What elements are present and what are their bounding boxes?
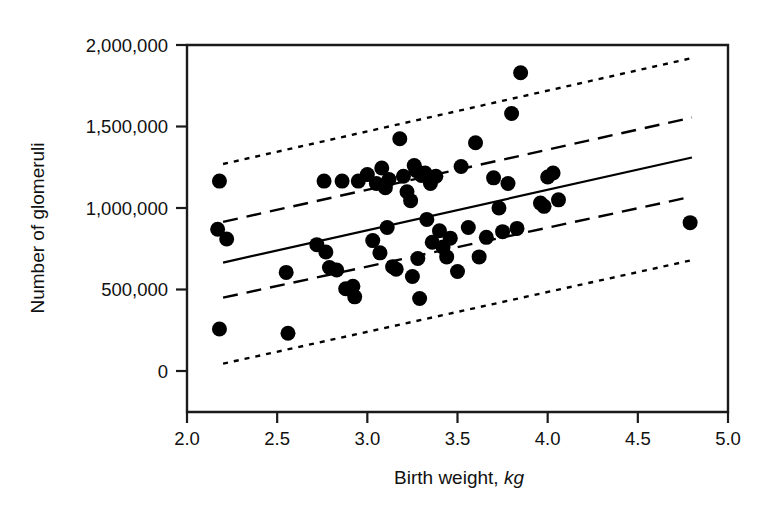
data-point <box>504 106 519 121</box>
x-tick-label-0: 2.0 <box>174 428 200 449</box>
data-point <box>419 212 434 227</box>
axes-frame <box>187 45 728 412</box>
fitted-regression-line <box>223 157 692 262</box>
data-point <box>212 321 227 336</box>
data-points-group <box>210 65 697 340</box>
data-point <box>491 201 506 216</box>
data-point <box>461 220 476 235</box>
data-point <box>280 326 295 341</box>
data-point <box>428 169 443 184</box>
x-tick-label-2: 3.0 <box>354 428 380 449</box>
x-tick-label-5: 4.5 <box>625 428 651 449</box>
x-axis-title-unit: kg <box>504 467 525 488</box>
x-tick-label-1: 2.5 <box>264 428 290 449</box>
data-point <box>335 174 350 189</box>
data-point <box>454 159 469 174</box>
scatter-plot-figure: 0500,0001,000,0001,500,0002,000,000 2.02… <box>0 0 771 509</box>
x-tick-label-3: 3.5 <box>445 428 471 449</box>
data-point <box>380 220 395 235</box>
data-point <box>403 193 418 208</box>
x-axis-title: Birth weight, kg <box>394 467 524 488</box>
data-point <box>443 231 458 246</box>
y-axis-title: Number of glomeruli <box>27 142 48 313</box>
x-axis-tick-labels: 2.02.53.03.54.04.55.0 <box>174 428 741 449</box>
x-tick-label-4: 4.0 <box>535 428 561 449</box>
y-tick-label-3: 1,500,000 <box>86 116 168 137</box>
y-tick-label-4: 2,000,000 <box>86 35 168 56</box>
data-point <box>486 170 501 185</box>
plot-frame-top-right <box>187 45 728 412</box>
y-tick-label-0: 0 <box>158 361 168 382</box>
y-tick-label-2: 1,000,000 <box>86 198 168 219</box>
data-point <box>683 215 698 230</box>
data-point <box>212 174 227 189</box>
y-axis-tick-labels: 0500,0001,000,0001,500,0002,000,000 <box>86 35 168 382</box>
data-point <box>546 165 561 180</box>
data-point <box>412 291 427 306</box>
prediction-interval-upper <box>223 58 692 164</box>
glomeruli-birthweight-scatter: 0500,0001,000,0001,500,0002,000,000 2.02… <box>0 0 771 509</box>
x-axis-ticks <box>187 412 728 423</box>
data-point <box>495 224 510 239</box>
x-tick-label-6: 5.0 <box>715 428 741 449</box>
data-point <box>537 199 552 214</box>
data-point <box>329 262 344 277</box>
x-axis-title-text: Birth weight, <box>394 467 504 488</box>
data-point <box>439 249 454 264</box>
data-point <box>551 192 566 207</box>
regression-line-group <box>223 157 692 262</box>
data-point <box>372 245 387 260</box>
data-point <box>450 264 465 279</box>
data-point <box>347 289 362 304</box>
data-point <box>468 135 483 150</box>
data-point <box>410 251 425 266</box>
y-axis-ticks <box>176 45 187 371</box>
data-point <box>219 231 234 246</box>
data-point <box>472 249 487 264</box>
data-point <box>405 269 420 284</box>
data-point <box>479 230 494 245</box>
data-point <box>392 131 407 146</box>
data-point <box>389 262 404 277</box>
data-point <box>317 174 332 189</box>
data-point <box>500 176 515 191</box>
data-point <box>513 65 528 80</box>
data-point <box>381 172 396 187</box>
data-point <box>318 245 333 260</box>
data-point <box>279 265 294 280</box>
y-tick-label-1: 500,000 <box>101 279 168 300</box>
data-point <box>510 221 525 236</box>
